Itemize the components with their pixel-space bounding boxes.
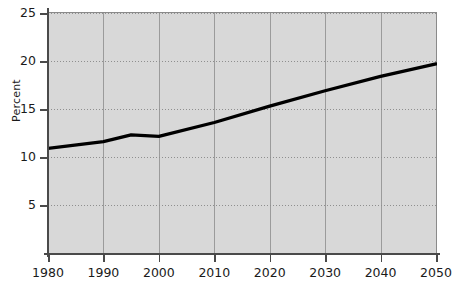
series-line-percent — [48, 64, 436, 148]
x-axis-tick — [381, 253, 383, 262]
x-axis-tick-label: 2010 — [191, 265, 237, 280]
y-axis-line — [47, 8, 49, 257]
x-axis-tick-label: 2020 — [247, 265, 293, 280]
x-axis-tick — [48, 253, 50, 262]
line-chart: Percent 252015105 1980199020002010202020… — [0, 0, 461, 295]
x-axis-tick — [270, 253, 272, 262]
x-axis-tick — [103, 253, 105, 262]
y-axis-tick-label: 5 — [0, 197, 36, 212]
y-axis-tick-label: 25 — [0, 5, 36, 20]
y-axis-tick — [40, 205, 48, 207]
y-axis-tick — [40, 109, 48, 111]
x-axis-tick — [159, 253, 161, 262]
x-axis-tick-label: 1990 — [80, 265, 126, 280]
x-axis-tick-label: 2050 — [413, 265, 459, 280]
x-axis-tick — [214, 253, 216, 262]
y-axis-tick-label: 20 — [0, 53, 36, 68]
y-axis-tick — [40, 157, 48, 159]
y-axis-tick-label: 15 — [0, 101, 36, 116]
y-axis-tick — [40, 61, 48, 63]
x-axis-tick-label: 2030 — [302, 265, 348, 280]
x-axis-tick — [436, 253, 438, 262]
x-axis-tick-label: 1980 — [25, 265, 71, 280]
y-axis-tick — [40, 13, 48, 15]
x-axis-tick-label: 2040 — [358, 265, 404, 280]
data-series-layer — [48, 13, 437, 254]
x-axis-tick — [325, 253, 327, 262]
y-axis-tick-label: 10 — [0, 149, 36, 164]
x-axis-tick-label: 2000 — [136, 265, 182, 280]
